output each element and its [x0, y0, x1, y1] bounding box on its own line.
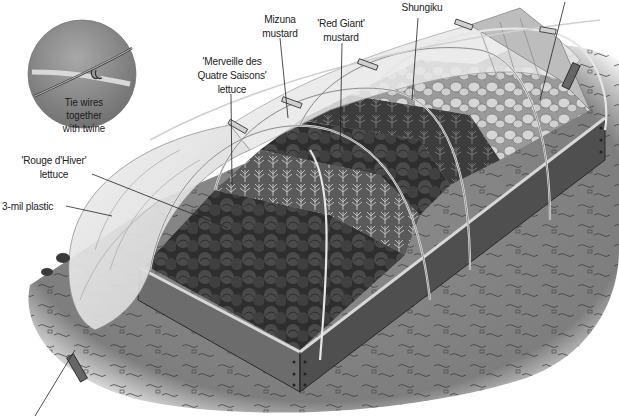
label-line: mustard — [309, 30, 372, 44]
inset-caption-line: Tie wires — [56, 96, 112, 109]
illustration-canvas — [0, 0, 619, 416]
label-shungiku: Shungiku — [396, 0, 449, 14]
garden-bed-illustration: Tie wires together with twine Mizuna mus… — [0, 0, 619, 416]
label-red-giant-mustard: 'Red Giant' mustard — [309, 16, 372, 44]
inset-caption-line: with twine — [56, 122, 112, 135]
label-line: 3-mil plastic — [2, 199, 53, 213]
inset-caption-line: together — [56, 109, 112, 122]
label-line: Mizuna — [254, 12, 307, 26]
label-line: Quatre Saisons' — [192, 68, 273, 82]
label-line: Shungiku — [396, 0, 449, 14]
label-line: 'Merveille des — [192, 54, 273, 68]
label-line: lettuce — [17, 167, 91, 181]
label-rouge-dhiver-lettuce: 'Rouge d'Hiver' lettuce — [17, 153, 91, 181]
label-mizuna-mustard: Mizuna mustard — [254, 12, 307, 40]
label-line: 'Rouge d'Hiver' — [17, 153, 91, 167]
label-line: 'Red Giant' — [309, 16, 372, 30]
label-3-mil-plastic: 3-mil plastic — [2, 199, 53, 213]
label-merveille-lettuce: 'Merveille des Quatre Saisons' lettuce — [192, 54, 273, 96]
inset-caption: Tie wires together with twine — [56, 96, 112, 135]
label-line: lettuce — [192, 82, 273, 96]
label-line: mustard — [254, 26, 307, 40]
